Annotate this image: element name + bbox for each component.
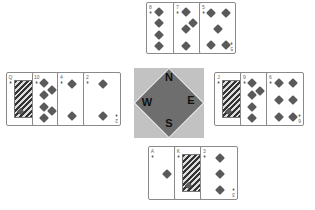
diamond-icon bbox=[213, 24, 223, 34]
compass-north-label: N bbox=[163, 71, 175, 83]
diamond-icon bbox=[288, 95, 298, 105]
diamond-icon bbox=[247, 102, 257, 112]
diamond-icon: ♦ bbox=[202, 154, 207, 159]
diamond-icon bbox=[181, 7, 191, 17]
card-index: 3♦ bbox=[231, 187, 236, 197]
card-east-3[interactable]: 6♦ 6♦ bbox=[266, 72, 304, 126]
card-index: K♦ bbox=[176, 149, 181, 159]
diamond-icon bbox=[221, 8, 231, 18]
diamond-icon bbox=[215, 153, 225, 163]
diamond-icon: ♦ bbox=[176, 154, 181, 159]
card-west-4[interactable]: 2♦ 2♦ bbox=[83, 72, 121, 126]
compass-west-label: W bbox=[141, 96, 153, 108]
diamond-icon: ♦ bbox=[114, 113, 119, 118]
diamond-icon: ♦ bbox=[8, 80, 13, 85]
card-index: 3♦ bbox=[202, 149, 207, 159]
card-index: 8♦ bbox=[148, 5, 153, 15]
diamond-icon bbox=[154, 18, 164, 28]
card-index: 6♦ bbox=[268, 75, 273, 85]
diamond-icon: ♦ bbox=[148, 10, 153, 15]
diamond-icon: ♦ bbox=[231, 187, 236, 192]
diamond-icon bbox=[274, 78, 284, 88]
card-index: 4♦ bbox=[59, 75, 64, 85]
card-index: Q♦ bbox=[8, 75, 13, 85]
diamond-icon bbox=[98, 111, 108, 121]
card-index: 5♦ bbox=[201, 5, 206, 15]
diamond-icon bbox=[288, 78, 298, 88]
diamond-icon bbox=[274, 95, 284, 105]
diamond-icon bbox=[154, 41, 164, 51]
diamond-icon bbox=[247, 113, 257, 123]
diamond-icon: ♦ bbox=[59, 80, 64, 85]
diamond-icon: ♦ bbox=[268, 80, 273, 85]
card-index: 2♦ bbox=[114, 113, 119, 123]
diamond-icon: ♦ bbox=[297, 113, 302, 118]
card-index: 9♦ bbox=[242, 75, 247, 85]
diamond-icon bbox=[154, 30, 164, 40]
diamond-icon: ♦ bbox=[85, 80, 90, 85]
diamond-icon bbox=[47, 85, 57, 95]
card-index: 7♦ bbox=[175, 5, 180, 15]
diamond-icon bbox=[39, 90, 49, 100]
diamond-icon bbox=[181, 24, 191, 34]
card-index: 2♦ bbox=[85, 75, 90, 85]
diamond-icon bbox=[67, 111, 77, 121]
diamond-icon bbox=[98, 79, 108, 89]
diamond-icon bbox=[215, 169, 225, 179]
diamond-icon bbox=[39, 113, 49, 123]
diamond-icon bbox=[154, 7, 164, 17]
diamond-icon bbox=[206, 8, 216, 18]
card-index: 10♦ bbox=[34, 75, 39, 85]
card-south-3[interactable]: 3♦ 3♦ bbox=[200, 146, 238, 200]
diamond-icon bbox=[274, 112, 284, 122]
card-north-3[interactable]: 5♦ 5♦ bbox=[199, 2, 236, 54]
diamond-icon bbox=[206, 40, 216, 50]
card-index: J♦ bbox=[216, 75, 221, 85]
diamond-icon bbox=[215, 185, 225, 195]
diamond-icon bbox=[67, 79, 77, 89]
diamond-icon bbox=[162, 169, 172, 179]
compass-south-label: S bbox=[163, 117, 175, 129]
diamond-icon bbox=[188, 18, 198, 28]
diamond-icon: ♦ bbox=[175, 10, 180, 15]
diamond-icon: ♦ bbox=[216, 80, 221, 85]
card-index: 6♦ bbox=[297, 113, 302, 123]
diamond-icon bbox=[247, 78, 257, 88]
card-index: A♦ bbox=[150, 149, 155, 159]
diamond-icon bbox=[39, 78, 49, 88]
compass-east-label: E bbox=[185, 94, 197, 106]
diamond-icon bbox=[47, 106, 57, 116]
diamond-icon bbox=[181, 41, 191, 51]
diamond-icon: ♦ bbox=[150, 154, 155, 159]
